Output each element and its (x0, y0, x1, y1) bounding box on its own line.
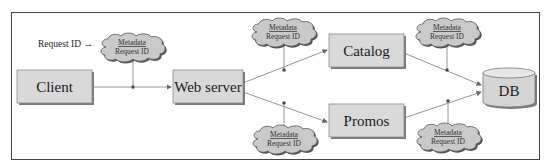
metadata-cloud-3: Metadata Request ID (416, 18, 482, 49)
metadata-cloud-2: Metadata Request ID (252, 18, 318, 49)
tether-dot-2 (282, 68, 285, 71)
node-catalog-label: Catalog (343, 43, 390, 59)
entry-request-id-label: Request ID → (38, 39, 93, 49)
node-web-server-label: Web server (174, 79, 242, 95)
node-db: DB (483, 68, 537, 109)
metadata-cloud-5: Metadata Request ID (417, 123, 483, 154)
cloud-3-subtitle: Request ID (430, 32, 465, 41)
cloud-5-title: Metadata (434, 128, 463, 137)
tether-dot-5 (446, 99, 449, 102)
cloud-5-subtitle: Request ID (431, 137, 466, 146)
metadata-cloud-1: Metadata Request ID (101, 33, 167, 64)
cloud-1-title: Metadata (118, 38, 147, 47)
cloud-4-title: Metadata (270, 130, 299, 139)
tether-dot-4 (282, 101, 285, 104)
node-web-server: Web server (173, 70, 245, 105)
tether-dot-3 (445, 68, 448, 71)
cloud-2-subtitle: Request ID (266, 32, 301, 41)
cloud-3-title: Metadata (433, 23, 462, 32)
node-db-label: DB (499, 83, 520, 99)
node-client: Client (17, 70, 94, 105)
metadata-cloud-4: Metadata Request ID (253, 125, 319, 156)
cloud-4-subtitle: Request ID (267, 139, 302, 148)
node-catalog: Catalog (329, 34, 406, 69)
node-promos-label: Promos (344, 113, 390, 129)
tether-dot-1 (131, 85, 134, 88)
cloud-1-subtitle: Request ID (115, 47, 150, 56)
cloud-2-title: Metadata (269, 23, 298, 32)
node-promos: Promos (329, 104, 406, 139)
architecture-diagram: Request ID → Client Web server Catalog P… (0, 0, 548, 167)
node-client-label: Client (36, 79, 73, 95)
